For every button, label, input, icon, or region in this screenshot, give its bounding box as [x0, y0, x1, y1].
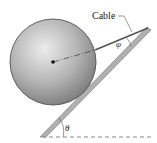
sphere-on-incline-diagram: Cable φ θ — [0, 0, 157, 143]
cable-label: Cable — [92, 10, 116, 21]
sphere-center-dot — [51, 60, 55, 64]
phi-angle-arc — [126, 37, 131, 46]
cable-leader — [118, 16, 132, 32]
theta-label: θ — [65, 123, 70, 133]
phi-label: φ — [116, 39, 121, 49]
